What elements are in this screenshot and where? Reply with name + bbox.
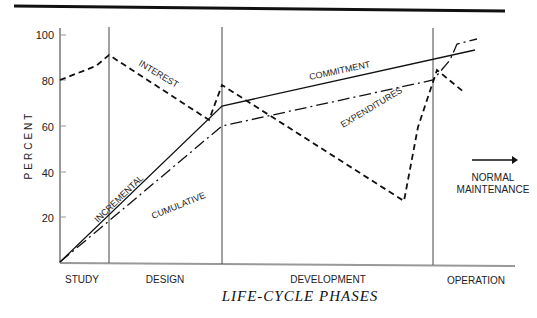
label-expenditures: EXPENDITURES	[339, 85, 404, 130]
ytick-40: 40	[42, 167, 54, 179]
phase-development: DEVELOPMENT	[290, 274, 366, 285]
expenditures-line	[60, 39, 477, 262]
label-interest: INTEREST	[137, 58, 181, 90]
annotation-normal: NORMAL	[472, 172, 515, 183]
ytick-100: 100	[36, 29, 54, 41]
ytick-80: 80	[42, 75, 54, 87]
label-incremental: INCREMENTAL	[92, 173, 145, 225]
annotation-maintenance: MAINTENANCE	[457, 184, 530, 195]
y-axis-title: PERCENT	[23, 111, 34, 180]
phase-operation: OPERATION	[447, 275, 505, 286]
label-cumulative: CUMULATIVE	[150, 190, 207, 221]
phase-study: STUDY	[65, 274, 99, 285]
lifecycle-chart: 100 80 60 40 20 PERCENT INTEREST COMMITM…	[0, 0, 537, 318]
phase-dividers	[109, 27, 433, 265]
x-axis	[60, 263, 515, 266]
ytick-20: 20	[42, 212, 54, 224]
top-rule	[14, 6, 505, 11]
label-commitment: COMMITMENT	[308, 59, 371, 82]
phase-design: DESIGN	[146, 274, 184, 285]
interest-line	[60, 55, 465, 201]
ytick-60: 60	[42, 121, 54, 133]
x-axis-title: LIFE-CYCLE PHASES	[221, 288, 379, 304]
arrow-head-icon	[512, 156, 518, 164]
